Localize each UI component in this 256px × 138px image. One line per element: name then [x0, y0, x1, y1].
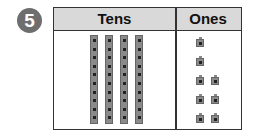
rod-cube-dot	[138, 73, 141, 76]
tens-rod	[120, 35, 128, 124]
rod-cube-dot	[123, 48, 126, 51]
rod-cube-dot	[123, 73, 126, 76]
rod-cube-dot	[93, 91, 96, 94]
rod-cube-dot	[108, 99, 111, 102]
rod-cube-dot	[93, 39, 96, 42]
rod-cube-dot	[138, 82, 141, 85]
rod-cube-dot	[123, 108, 126, 111]
rod-cube-dot	[108, 39, 111, 42]
rod-cube-dot	[138, 116, 141, 119]
ones-cube	[196, 96, 204, 104]
rod-cube-dot	[123, 56, 126, 59]
rod-cube-dot	[123, 99, 126, 102]
rod-cube-dot	[108, 108, 111, 111]
rod-cube-dot	[138, 56, 141, 59]
rod-cube-dot	[108, 56, 111, 59]
rod-cube-dot	[138, 91, 141, 94]
tens-rod	[105, 35, 113, 124]
rod-cube-dot	[108, 48, 111, 51]
ones-header: Ones	[175, 8, 241, 31]
tens-rod	[135, 35, 143, 124]
rod-cube-dot	[138, 65, 141, 68]
ones-cube	[211, 77, 219, 85]
rod-cube-dot	[138, 108, 141, 111]
ones-cube	[196, 77, 204, 85]
column-divider	[175, 8, 177, 129]
place-value-table: Tens Ones	[53, 7, 242, 130]
rod-cube-dot	[93, 56, 96, 59]
rod-cube-dot	[93, 82, 96, 85]
ones-cube	[196, 115, 204, 123]
rod-cube-dot	[93, 116, 96, 119]
rod-cube-dot	[108, 116, 111, 119]
rod-cube-dot	[108, 82, 111, 85]
rod-cube-dot	[108, 73, 111, 76]
problem-number-badge: 5	[17, 8, 42, 33]
rod-cube-dot	[123, 39, 126, 42]
rod-cube-dot	[93, 48, 96, 51]
tens-rod	[90, 35, 98, 124]
rod-cube-dot	[108, 65, 111, 68]
rod-cube-dot	[138, 99, 141, 102]
ones-cube	[196, 58, 204, 66]
rod-cube-dot	[93, 99, 96, 102]
ones-cube	[196, 39, 204, 47]
rod-cube-dot	[123, 65, 126, 68]
rod-cube-dot	[93, 65, 96, 68]
tens-header: Tens	[54, 8, 175, 31]
rod-cube-dot	[123, 116, 126, 119]
rod-cube-dot	[138, 48, 141, 51]
rod-cube-dot	[93, 73, 96, 76]
rod-cube-dot	[93, 108, 96, 111]
rod-cube-dot	[123, 82, 126, 85]
ones-cube	[211, 96, 219, 104]
rod-cube-dot	[108, 91, 111, 94]
rod-cube-dot	[123, 91, 126, 94]
rod-cube-dot	[138, 39, 141, 42]
ones-cube	[211, 115, 219, 123]
